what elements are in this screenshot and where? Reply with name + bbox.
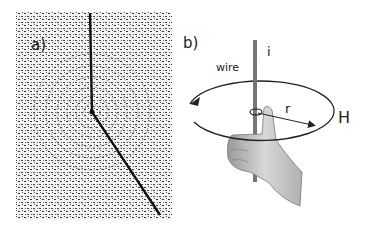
panel-a-label: a) bbox=[31, 38, 46, 53]
radius-label: r bbox=[285, 102, 290, 115]
wire-label: wire bbox=[216, 62, 239, 73]
field-label: H bbox=[338, 110, 350, 126]
right-hand-rule-diagram bbox=[190, 40, 334, 206]
current-label: i bbox=[267, 45, 271, 58]
panel-b-label: b) bbox=[183, 36, 198, 51]
hand-icon bbox=[228, 106, 303, 206]
